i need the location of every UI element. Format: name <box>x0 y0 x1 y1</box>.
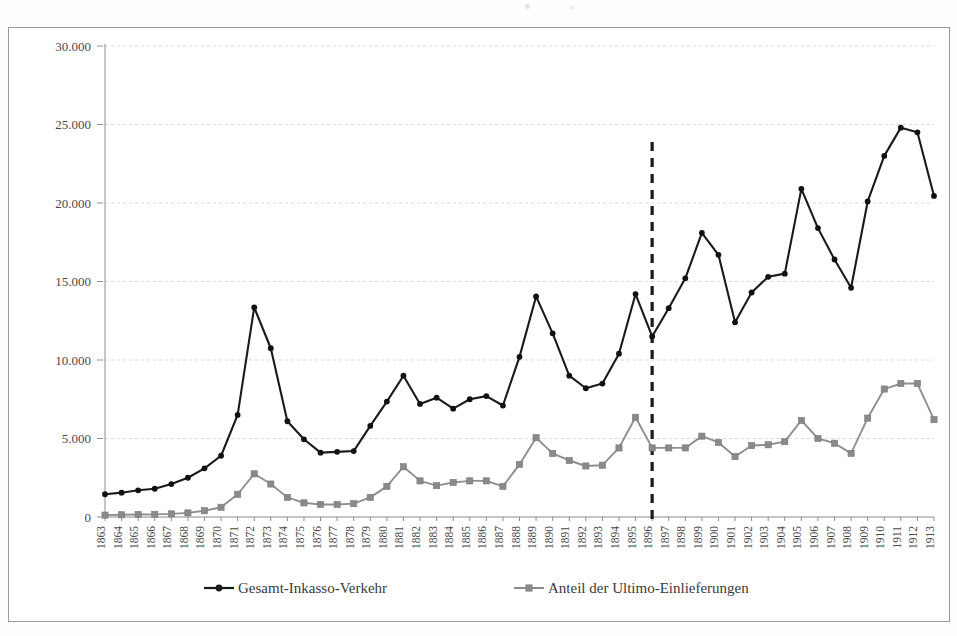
data-point <box>765 274 771 280</box>
data-point <box>152 511 158 517</box>
x-tick-label: 1910 <box>874 526 886 549</box>
data-point <box>566 373 572 379</box>
x-tick-label: 1901 <box>725 526 737 549</box>
data-point <box>102 512 108 518</box>
data-point <box>202 465 208 471</box>
x-tick-label: 1906 <box>808 526 820 549</box>
x-tick-label: 1871 <box>228 526 240 549</box>
x-tick-label: 1912 <box>907 526 919 549</box>
y-axis-tick-labels: 05.00010.00015.00020.00025.00030.000 <box>55 39 91 525</box>
data-point <box>666 305 672 311</box>
x-tick-label: 1911 <box>891 526 903 549</box>
data-point <box>235 412 241 418</box>
x-tick-label: 1864 <box>112 526 124 549</box>
data-point <box>583 385 589 391</box>
data-point <box>434 395 440 401</box>
data-point <box>517 354 523 360</box>
figure-page: 05.00010.00015.00020.00025.00030.000 186… <box>0 0 957 636</box>
data-point <box>550 330 556 336</box>
x-tick-label: 1884 <box>443 526 455 549</box>
x-tick-label: 1894 <box>609 526 621 549</box>
data-point <box>865 415 871 421</box>
x-tick-label: 1870 <box>211 526 223 549</box>
data-point <box>798 417 804 423</box>
x-tick-label: 1878 <box>344 526 356 549</box>
data-point <box>600 381 606 387</box>
legend-item-primary[interactable]: Gesamt-Inkasso-Verkehr <box>204 580 387 596</box>
data-point <box>218 504 224 510</box>
x-tick-label: 1895 <box>626 526 638 549</box>
data-point <box>119 490 125 496</box>
data-point <box>417 401 423 407</box>
y-tick-label: 10.000 <box>55 353 91 368</box>
data-point <box>782 439 788 445</box>
data-point <box>798 186 804 192</box>
line-chart: 05.00010.00015.00020.00025.00030.000 186… <box>9 28 951 623</box>
chart-frame: 05.00010.00015.00020.00025.00030.000 186… <box>8 27 950 622</box>
data-point <box>898 125 904 131</box>
chart-plot-area: 05.00010.00015.00020.00025.00030.000 186… <box>9 28 951 623</box>
data-point <box>185 510 191 516</box>
data-point <box>185 475 191 481</box>
data-point <box>317 501 323 507</box>
data-point <box>218 453 224 459</box>
legend-label: Anteil der Ultimo-Einlieferungen <box>548 580 749 596</box>
data-point <box>367 494 373 500</box>
data-point <box>168 511 174 517</box>
x-tick-label: 1879 <box>360 526 372 549</box>
x-tick-label: 1867 <box>161 526 173 549</box>
x-tick-label: 1877 <box>327 526 339 549</box>
data-point <box>367 423 373 429</box>
axis-lines <box>105 44 934 517</box>
x-tick-label: 1868 <box>178 526 190 549</box>
data-point <box>483 478 489 484</box>
data-point <box>268 345 274 351</box>
data-point <box>616 445 622 451</box>
x-tick-label: 1891 <box>559 526 571 549</box>
x-tick-label: 1874 <box>277 526 289 549</box>
data-point <box>500 403 506 409</box>
data-point <box>633 291 639 297</box>
data-point <box>284 494 290 500</box>
x-tick-label: 1904 <box>775 526 787 549</box>
x-tick-label: 1897 <box>659 526 671 549</box>
y-tick-label: 5.000 <box>62 431 91 446</box>
data-point <box>583 463 589 469</box>
series-secondary <box>102 380 937 518</box>
x-tick-label: 1882 <box>410 526 422 549</box>
data-point <box>765 442 771 448</box>
data-point <box>914 380 920 386</box>
data-point <box>649 445 655 451</box>
scan-speckle <box>570 6 573 9</box>
data-point <box>251 471 257 477</box>
legend-item-secondary[interactable]: Anteil der Ultimo-Einlieferungen <box>514 580 749 596</box>
x-tick-label: 1898 <box>675 526 687 549</box>
data-point <box>732 453 738 459</box>
data-point <box>384 399 390 405</box>
gridlines <box>97 46 934 517</box>
data-point <box>533 435 539 441</box>
data-point <box>400 464 406 470</box>
data-point <box>351 501 357 507</box>
data-point <box>599 462 605 468</box>
x-tick-label: 1887 <box>493 526 505 549</box>
data-point <box>815 435 821 441</box>
x-tick-label: 1905 <box>791 526 803 549</box>
data-point <box>782 271 788 277</box>
data-point <box>550 450 556 456</box>
x-tick-label: 1893 <box>592 526 604 549</box>
x-tick-label: 1863 <box>95 526 107 549</box>
scan-speckle <box>525 4 530 9</box>
data-point <box>848 450 854 456</box>
data-point <box>533 294 539 300</box>
data-point <box>831 440 837 446</box>
chart-legend: Gesamt-Inkasso-VerkehrAnteil der Ultimo-… <box>204 580 749 596</box>
y-tick-label: 0 <box>85 510 92 525</box>
data-point <box>931 417 937 423</box>
data-point <box>832 257 838 263</box>
x-tick-label: 1889 <box>526 526 538 549</box>
data-point <box>616 351 622 357</box>
data-point <box>284 418 290 424</box>
data-series-group <box>102 125 937 518</box>
x-axis-tick-labels: 1863186418651866186718681869187018711872… <box>95 517 936 549</box>
